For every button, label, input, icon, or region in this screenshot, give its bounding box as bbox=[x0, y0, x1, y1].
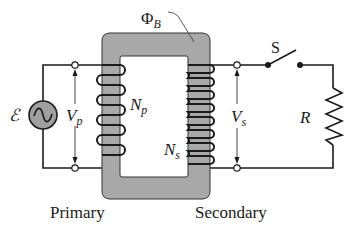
switch-label: S bbox=[271, 39, 280, 56]
flux-label: ΦB bbox=[141, 9, 161, 31]
secondary-terminal-top bbox=[234, 62, 240, 68]
resistor-label: R bbox=[299, 108, 311, 127]
secondary-circuit bbox=[210, 50, 342, 168]
switch-contact-right bbox=[297, 62, 303, 68]
primary-terminal-top bbox=[72, 62, 78, 68]
transformer-diagram: ΦB ℰ Vp Np Ns Vs S R Primary Secondary bbox=[0, 0, 358, 235]
ac-source bbox=[29, 101, 57, 129]
switch-contact-left bbox=[265, 62, 271, 68]
secondary-turns-label: Ns bbox=[163, 140, 180, 162]
secondary-caption: Secondary bbox=[195, 203, 267, 222]
primary-voltage-label: Vp bbox=[66, 106, 82, 128]
secondary-voltage-label: Vs bbox=[231, 107, 246, 129]
primary-caption: Primary bbox=[50, 203, 105, 222]
primary-turns-label: Np bbox=[129, 95, 147, 117]
emf-label: ℰ bbox=[9, 106, 21, 125]
primary-terminal-bottom bbox=[72, 165, 78, 171]
secondary-terminal-bottom bbox=[234, 165, 240, 171]
resistor-zigzag bbox=[326, 88, 342, 145]
